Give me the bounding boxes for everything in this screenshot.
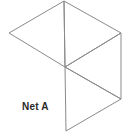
bottom-triangle (65, 67, 121, 131)
net-label: Net A (22, 101, 49, 112)
left-triangle (9, 1, 65, 67)
net-diagram: Net A (0, 0, 125, 132)
net-shape (0, 0, 125, 132)
middle-right-triangle (65, 33, 121, 99)
upper-right-triangle (64, 1, 121, 67)
